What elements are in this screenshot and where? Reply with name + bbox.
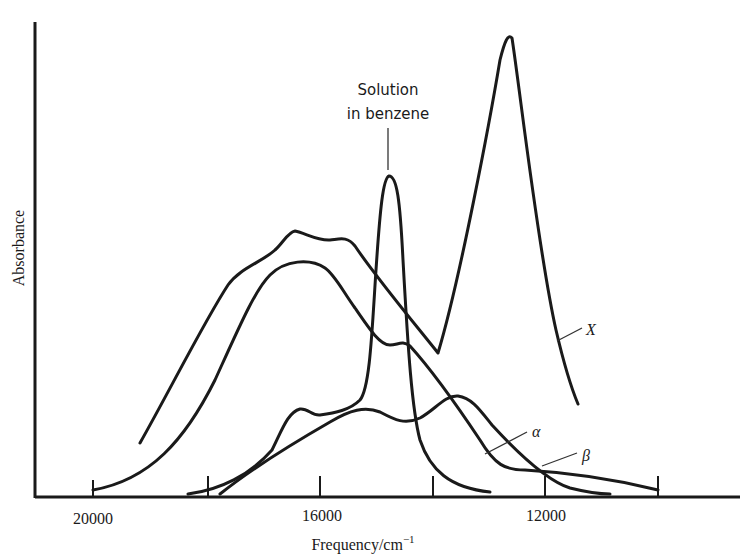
leader-alpha [485,432,527,454]
curve-solution-in-benzene [188,176,490,494]
series-label-beta: β [581,447,590,465]
x-axis-title: Frequency/cm−1 [311,533,414,554]
leader-x [557,328,582,341]
series-label-alpha: α [532,423,541,440]
x-ticks [93,476,658,497]
y-axis-title: Absorbance [10,210,27,286]
series-label-x: X [585,321,597,338]
tick-label-12000: 12000 [526,507,566,524]
annotation-solution-label-line2: in benzene [347,105,430,123]
leader-beta [542,453,577,466]
tick-label-20000: 20000 [73,510,113,527]
absorbance-spectrum-chart: 20000 16000 12000 Frequency/cm−1 Absorba… [0,0,748,559]
annotation-solution-label-line1: Solution [357,81,418,99]
tick-label-16000: 16000 [302,507,342,524]
